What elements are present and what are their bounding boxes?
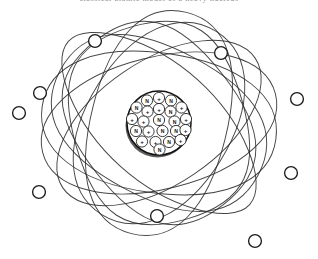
nucleon-proton: + — [175, 134, 186, 145]
nucleon-proton: + — [138, 116, 149, 127]
neutron-circle — [165, 106, 176, 117]
electron — [13, 107, 26, 120]
nucleon-neutron: N — [163, 136, 174, 147]
nucleon-proton: + — [136, 136, 147, 147]
proton-circle — [138, 116, 149, 127]
nucleon-neutron: N — [131, 102, 142, 113]
proton-circle — [136, 136, 147, 147]
nucleon-proton: + — [126, 113, 137, 124]
electron — [215, 47, 228, 60]
nucleon-neutron: N — [165, 106, 176, 117]
proton-circle — [180, 124, 191, 135]
proton-circle — [153, 92, 164, 103]
nucleon-neutron: N — [153, 114, 164, 125]
nucleon-proton: + — [153, 103, 164, 114]
neutron-circle — [165, 95, 176, 106]
electron — [285, 167, 298, 180]
electron — [34, 87, 47, 100]
electron — [33, 186, 46, 199]
nucleon-proton: + — [180, 113, 191, 124]
neutron-circle — [153, 114, 164, 125]
electron — [249, 235, 262, 248]
atom-figure: classical atomic model of a heavy nucleu… — [0, 0, 318, 259]
electron — [151, 210, 164, 223]
nucleon-proton: + — [142, 106, 153, 117]
nucleon-neutron: N — [165, 95, 176, 106]
nucleon-proton: + — [143, 126, 154, 137]
proton-circle — [143, 126, 154, 137]
nucleon-proton: + — [176, 102, 187, 113]
nucleon-neutron: N — [141, 95, 152, 106]
proton-circle — [176, 102, 187, 113]
electron — [291, 93, 304, 106]
nucleon-proton: + — [153, 92, 164, 103]
proton-circle — [126, 113, 137, 124]
neutron-circle — [157, 125, 168, 136]
nucleon-proton: + — [180, 124, 191, 135]
electron — [89, 35, 102, 48]
neutron-circle — [154, 144, 165, 155]
atom-illustration: +NNN+++N++NN+N+NN+++N+N — [0, 0, 318, 259]
neutron-circle — [130, 125, 141, 136]
neutron-circle — [131, 102, 142, 113]
neutron-circle — [163, 136, 174, 147]
proton-circle — [153, 103, 164, 114]
neutron-circle — [141, 95, 152, 106]
proton-circle — [175, 134, 186, 145]
nucleon-neutron: N — [154, 144, 165, 155]
proton-circle — [180, 113, 191, 124]
proton-circle — [142, 106, 153, 117]
nucleon-neutron: N — [157, 125, 168, 136]
nucleus-layer: +NNN+++N++NN+N+NN+++N+N — [126, 91, 192, 158]
nucleon-neutron: N — [130, 125, 141, 136]
